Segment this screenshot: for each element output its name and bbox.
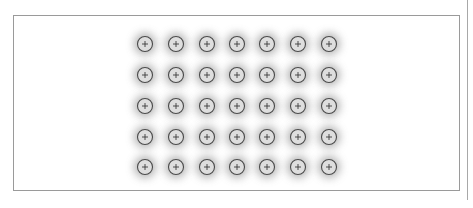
- circle-plus-icon: [291, 68, 306, 83]
- circle-plus-icon: [260, 99, 275, 114]
- circle-plus-icon: [230, 160, 245, 175]
- circle-plus-icon: [138, 130, 153, 145]
- circle-plus-icon: [169, 130, 184, 145]
- circle-plus-icon: [169, 68, 184, 83]
- circle-plus-icon: [230, 130, 245, 145]
- circle-plus-icon: [138, 37, 153, 52]
- element-array: [0, 0, 473, 208]
- circle-plus-icon: [260, 130, 275, 145]
- circle-plus-icon: [200, 37, 215, 52]
- circle-plus-icon: [200, 130, 215, 145]
- circle-plus-icon: [138, 68, 153, 83]
- circle-plus-icon: [230, 68, 245, 83]
- circle-plus-icon: [322, 68, 337, 83]
- circle-plus-icon: [322, 99, 337, 114]
- circle-plus-icon: [200, 160, 215, 175]
- circle-plus-icon: [260, 37, 275, 52]
- circle-plus-icon: [200, 99, 215, 114]
- circle-plus-icon: [322, 37, 337, 52]
- circle-plus-icon: [260, 68, 275, 83]
- circle-plus-icon: [322, 130, 337, 145]
- circle-plus-icon: [322, 160, 337, 175]
- circle-plus-icon: [260, 160, 275, 175]
- circle-plus-icon: [291, 160, 306, 175]
- circle-plus-icon: [291, 130, 306, 145]
- circle-plus-icon: [291, 99, 306, 114]
- circle-plus-icon: [230, 37, 245, 52]
- circle-plus-icon: [291, 37, 306, 52]
- circle-plus-icon: [169, 37, 184, 52]
- circle-plus-icon: [169, 99, 184, 114]
- circle-plus-icon: [230, 99, 245, 114]
- circle-plus-icon: [138, 160, 153, 175]
- circle-plus-icon: [169, 160, 184, 175]
- circle-plus-icon: [200, 68, 215, 83]
- circle-plus-icon: [138, 99, 153, 114]
